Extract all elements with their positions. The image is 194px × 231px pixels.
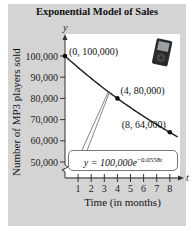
callout-line — [82, 92, 108, 150]
x-tick-label: 7 — [154, 183, 159, 194]
x-tick-label: 1 — [76, 183, 81, 194]
x-tick-label: 4 — [115, 183, 120, 194]
data-point — [115, 96, 120, 101]
data-point — [63, 54, 68, 59]
equation-box: y = 100,000e−0.0558t — [68, 150, 178, 171]
chart-svg: yt1234567850,00060,00070,00080,00090,000… — [0, 0, 194, 231]
y-tick-label: 70,000 — [31, 114, 59, 125]
x-tick-label: 6 — [141, 183, 146, 194]
x-axis-symbol: t — [186, 172, 189, 183]
point-label: (8, 64,000) — [122, 119, 166, 131]
y-tick-label: 90,000 — [31, 72, 59, 83]
data-point — [168, 130, 173, 135]
equation-lhs: y = 100,000 — [84, 157, 133, 168]
point-label: (4, 80,000) — [120, 85, 164, 97]
x-tick-label: 3 — [102, 183, 107, 194]
equation-exponent: −0.0558t — [137, 156, 162, 164]
callout-line — [87, 92, 109, 150]
figure: Exponential Model of Sales Number of MP3… — [0, 0, 194, 231]
x-axis-arrow-icon — [178, 176, 184, 181]
y-axis-arrow-icon — [63, 34, 68, 40]
x-tick-label: 5 — [128, 183, 133, 194]
y-tick-label: 50,000 — [31, 157, 59, 168]
mp3-player-icon — [152, 38, 173, 67]
x-tick-label: 2 — [89, 183, 94, 194]
y-tick-label: 100,000 — [26, 51, 59, 62]
y-axis-symbol: y — [62, 22, 68, 33]
y-tick-label: 60,000 — [31, 135, 59, 146]
x-tick-label: 8 — [167, 183, 172, 194]
point-label: (0, 100,000) — [69, 46, 118, 58]
y-tick-label: 80,000 — [31, 93, 59, 104]
